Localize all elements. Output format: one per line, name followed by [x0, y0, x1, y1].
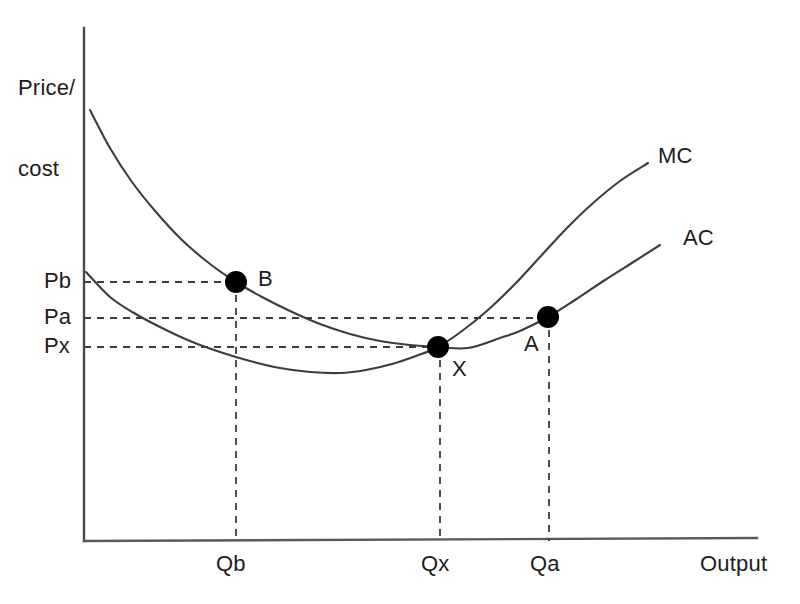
data-point-b: [225, 271, 247, 293]
x-axis-title: Output: [700, 551, 767, 577]
y-tick-label-pa: Pa: [44, 304, 71, 330]
average-cost-curve: [90, 110, 660, 349]
cost-curve-diagram: Price/ cost Output Pb Pa Px Qb Qx Qa MC …: [0, 0, 800, 604]
plot-area: [0, 0, 800, 604]
y-axis-title: Price/ cost: [18, 20, 75, 236]
point-label-x: X: [452, 356, 467, 382]
x-tick-label-qb: Qb: [216, 551, 246, 577]
data-point-x: [427, 336, 449, 358]
marginal-cost-curve: [86, 163, 648, 373]
y-tick-label-px: Px: [44, 333, 70, 359]
data-point-a: [537, 306, 559, 328]
curve-label-ac: AC: [683, 225, 714, 251]
point-label-a: A: [524, 331, 539, 357]
y-tick-label-pb: Pb: [44, 268, 71, 294]
x-tick-label-qx: Qx: [421, 551, 450, 577]
y-axis-title-line1: Price/: [18, 74, 75, 101]
point-label-b: B: [258, 266, 273, 292]
x-tick-label-qa: Qa: [530, 551, 560, 577]
data-point-markers: [225, 271, 559, 358]
x-axis-line: [84, 538, 757, 541]
y-axis-title-line2: cost: [18, 155, 75, 182]
curve-label-mc: MC: [658, 143, 693, 169]
